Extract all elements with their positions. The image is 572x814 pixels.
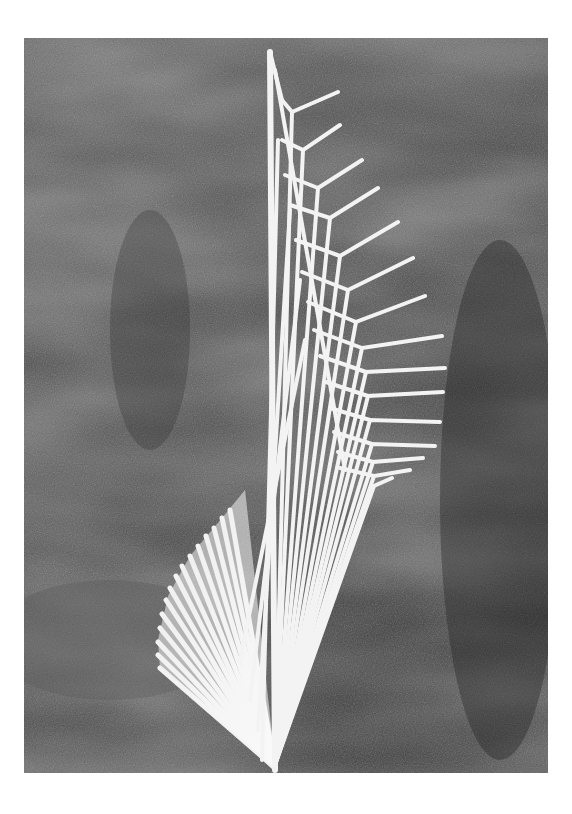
photograph: [24, 38, 548, 773]
sculpture-photo: [24, 38, 548, 773]
